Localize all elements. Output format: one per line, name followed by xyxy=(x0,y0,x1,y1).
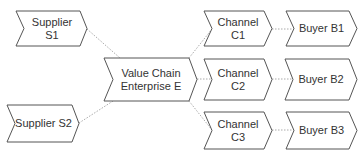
node-channel-c2[interactable] xyxy=(204,59,272,100)
node-buyer-b3[interactable] xyxy=(286,112,357,149)
node-channel-c3[interactable] xyxy=(204,112,272,149)
value-chain-diagram xyxy=(0,0,361,159)
node-buyer-b2[interactable] xyxy=(285,59,357,100)
edge-s1-e xyxy=(87,29,120,58)
node-supplier-s2[interactable] xyxy=(7,105,79,142)
edge-s2-e xyxy=(79,101,113,123)
node-enterprise-e[interactable] xyxy=(104,58,197,101)
node-channel-c1[interactable] xyxy=(204,11,272,46)
node-supplier-s1[interactable] xyxy=(16,11,87,46)
node-buyer-b1[interactable] xyxy=(286,11,357,46)
